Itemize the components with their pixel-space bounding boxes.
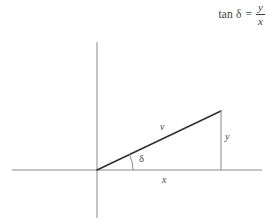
figure-canvas: tan δ = y x v x y xyxy=(0,0,269,223)
vector-line xyxy=(97,111,221,170)
angle-delta-label: δ xyxy=(139,154,144,165)
vector-label: v xyxy=(160,122,164,132)
diagram-svg xyxy=(0,0,269,223)
angle-arc xyxy=(130,155,133,170)
x-component-label: x xyxy=(162,175,166,185)
vector-diagram: v x y δ xyxy=(0,0,269,223)
y-component-label: y xyxy=(225,132,229,142)
